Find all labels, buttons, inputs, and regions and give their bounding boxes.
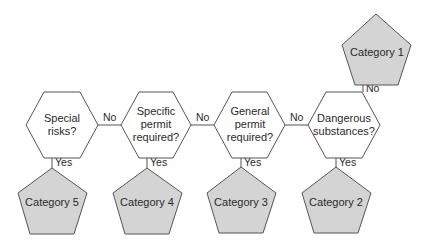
category-5: Category 5 [18, 168, 87, 234]
decision-label: risks? [48, 125, 77, 137]
decision-label: substances? [313, 125, 375, 137]
category-label: Category 4 [120, 196, 174, 208]
decision-special-risks: Special risks? [26, 92, 98, 158]
decision-label: permit [235, 118, 266, 130]
decision-label: Special [44, 112, 80, 124]
category-4: Category 4 [113, 168, 182, 234]
category-1: Category 1 [342, 14, 411, 85]
category-label: Category 2 [309, 196, 363, 208]
decision-label: General [230, 105, 269, 117]
decision-label: required? [133, 131, 179, 143]
decision-dangerous-substances: Dangerous substances? [308, 92, 380, 158]
category-2: Category 2 [302, 167, 371, 233]
decision-general-permit: General permit required? [214, 92, 285, 158]
decision-label: permit [141, 118, 172, 130]
decision-label: Dangerous [317, 112, 371, 124]
category-label: Category 5 [25, 196, 79, 208]
category-label: Category 3 [214, 196, 268, 208]
category-3: Category 3 [207, 167, 276, 233]
category-decision-flowchart: No No No No Yes Yes Yes Yes Special risk… [0, 0, 431, 252]
edge-label-no: No [290, 111, 304, 123]
decision-specific-permit: Specific permit required? [121, 92, 191, 158]
category-label: Category 1 [350, 46, 404, 58]
edge-label-no: No [103, 111, 117, 123]
edge-label-no: No [196, 111, 210, 123]
decision-label: required? [227, 131, 273, 143]
decision-label: Specific [137, 105, 176, 117]
